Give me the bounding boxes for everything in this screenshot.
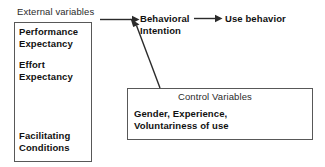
construct-effort-expectancy-line1: Effort xyxy=(19,59,73,71)
node-behavioral-intention-line2: Intention xyxy=(140,25,190,37)
construct-facilitating-conditions: Facilitating Conditions xyxy=(19,130,70,153)
construct-facilitating-conditions-line2: Conditions xyxy=(19,142,70,154)
node-behavioral-intention-line1: Behavioral xyxy=(140,13,190,25)
construct-effort-expectancy: Effort Expectancy xyxy=(19,59,73,82)
node-use-behavior: Use behavior xyxy=(225,13,286,25)
construct-performance-expectancy: Performance Expectancy xyxy=(19,26,78,49)
construct-facilitating-conditions-line1: Facilitating xyxy=(19,130,70,142)
control-variables-line1: Gender, Experience, xyxy=(134,108,229,120)
construct-performance-expectancy-line2: Expectancy xyxy=(19,38,78,50)
construct-effort-expectancy-line2: Expectancy xyxy=(19,71,73,83)
arrow-behavioral-intention-to-use-behavior-icon xyxy=(194,15,223,22)
control-variables-line2: Voluntariness of use xyxy=(134,120,229,132)
external-variables-caption: External variables xyxy=(17,6,94,17)
diagram-canvas: External variables Performance Expectanc… xyxy=(0,0,325,167)
node-behavioral-intention: Behavioral Intention xyxy=(140,13,190,36)
control-variables-items: Gender, Experience, Voluntariness of use xyxy=(134,108,229,131)
construct-performance-expectancy-line1: Performance xyxy=(19,26,78,38)
arrow-external-to-behavioral-intention-icon xyxy=(100,16,140,23)
control-variables-title: Control Variables xyxy=(178,91,252,102)
